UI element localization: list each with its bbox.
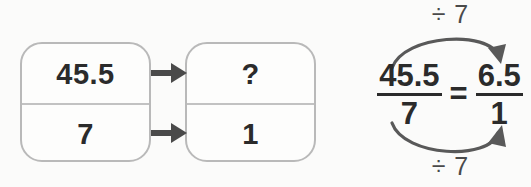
equals-sign: =: [448, 76, 470, 112]
worksheet-figure: 45.5 7 ? 1 ÷ 7 45.5 7 = 6.5 1: [0, 0, 531, 187]
fraction-right-numerator: 6.5: [476, 60, 523, 93]
ratio-box-result: ? 1: [185, 42, 316, 162]
arrow-right-icon-bottom: [150, 120, 190, 146]
ratio-box-original-bottom-value: 7: [22, 104, 149, 164]
fraction-left-numerator: 45.5: [377, 60, 441, 93]
ratio-box-result-bottom-value: 1: [187, 104, 314, 164]
ratio-box-result-top-value: ?: [187, 44, 314, 104]
ratio-box-original: 45.5 7: [20, 42, 151, 162]
ratio-box-original-top-value: 45.5: [22, 44, 149, 104]
divide-label-top: ÷ 7: [378, 0, 523, 29]
divide-label-bottom: ÷ 7: [378, 152, 523, 181]
arrow-right-icon-top: [150, 60, 190, 86]
